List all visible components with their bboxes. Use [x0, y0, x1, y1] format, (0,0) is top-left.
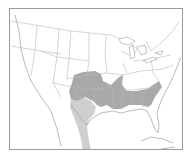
range-area-secondary — [70, 93, 96, 150]
map-canvas — [10, 9, 183, 150]
great-lakes — [119, 37, 163, 63]
range-map — [9, 8, 183, 150]
